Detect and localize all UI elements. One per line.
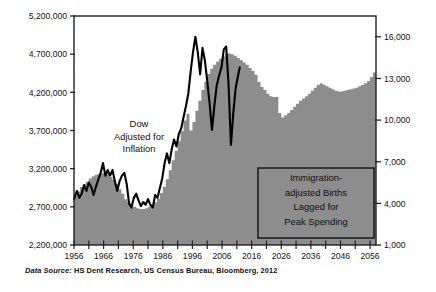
left-axis-tick-label: 4,700,000: [29, 49, 67, 59]
x-axis-tick-label: 1966: [94, 251, 113, 261]
x-axis-tick-label: 2026: [272, 251, 291, 261]
x-axis-tick-label: 1956: [64, 251, 83, 261]
x-axis-tick-label: 1986: [153, 251, 172, 261]
right-axis-tick-label: 16,000: [384, 32, 411, 42]
right-axis-tick-label: 4,000: [384, 199, 406, 209]
births-annotation-line: Peak Spending: [284, 216, 348, 227]
data-source-caption: Data Source: HS Dent Research, US Census…: [25, 266, 277, 275]
dow-annotation-line: Dow: [130, 118, 149, 129]
x-axis-tick-label: 2016: [242, 251, 261, 261]
x-axis-tick-label: 1996: [183, 251, 202, 261]
chart-canvas: 2,200,0002,700,0003,200,0003,700,0004,20…: [0, 0, 436, 292]
births-annotation-line: Lagged for: [294, 201, 339, 212]
left-axis-tick-label: 2,200,000: [29, 240, 67, 250]
right-axis-tick-label: 1,000: [384, 240, 406, 250]
chart-figure: 2,200,0002,700,0003,200,0003,700,0004,20…: [0, 0, 436, 292]
x-axis-tick-label: 2036: [301, 251, 320, 261]
dow-annotation-line: Adjusted for: [114, 131, 164, 142]
left-axis-tick-label: 3,200,000: [29, 164, 67, 174]
left-axis-tick-label: 3,700,000: [29, 126, 67, 136]
left-axis-tick-label: 5,200,000: [29, 11, 67, 21]
x-axis-tick-label: 1976: [124, 251, 143, 261]
data-source-text: HS Dent Research, US Census Bureau, Bloo…: [72, 266, 278, 275]
left-axis-tick-label: 2,700,000: [29, 202, 67, 212]
dow-annotation-line: Inflation: [123, 143, 156, 154]
x-axis-tick-label: 2006: [212, 251, 231, 261]
right-axis-tick-label: 7,000: [384, 157, 406, 167]
births-annotation-line: adjusted Births: [285, 187, 347, 198]
right-axis-tick-label: 13,000: [384, 74, 411, 84]
x-axis-tick-label: 2046: [331, 251, 350, 261]
births-annotation-line: Immigration-: [290, 172, 342, 183]
data-source-label: Data Source:: [25, 266, 72, 275]
x-axis-tick-label: 2056: [361, 251, 380, 261]
right-axis-tick-label: 10,000: [384, 115, 411, 125]
left-axis-tick-label: 4,200,000: [29, 88, 67, 98]
